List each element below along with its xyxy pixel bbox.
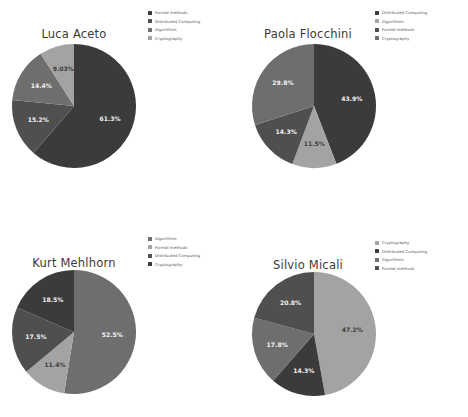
- page-title: Luca Aceto: [0, 27, 148, 41]
- legend-item-label: Formal methods: [155, 245, 187, 250]
- legend-item-label: Algorithms: [382, 19, 404, 24]
- pie-slice-label: 14.3%: [293, 367, 314, 374]
- legend-swatch-icon: [148, 262, 152, 266]
- legend-item[interactable]: Algorithms: [375, 18, 427, 25]
- legend-swatch-icon: [375, 19, 379, 23]
- legend-item-label: Distributed Computing: [382, 10, 427, 15]
- legend-item-label: Algorithms: [382, 257, 404, 262]
- chart-panel-paola-flocchini: Distributed ComputingAlgorithmsFormal me…: [234, 0, 468, 208]
- legend-item[interactable]: Cryptography: [375, 35, 427, 42]
- legend: Formal methodsDistributed ComputingAlgor…: [148, 9, 200, 42]
- page-title: Paola Flocchini: [234, 27, 382, 41]
- legend-swatch-icon: [148, 36, 152, 40]
- legend-item-label: Distributed Computing: [382, 249, 427, 254]
- legend-item[interactable]: Formal methods: [148, 244, 200, 251]
- legend-swatch-icon: [148, 245, 152, 249]
- legend-item[interactable]: Distributed Computing: [375, 248, 427, 255]
- pie-slice-label: 61.3%: [99, 115, 120, 122]
- pie-slice-label: 14.3%: [276, 128, 297, 135]
- legend-item-label: Formal methods: [382, 27, 414, 32]
- legend-swatch-icon: [148, 254, 152, 258]
- legend-item-label: Distributed Computing: [155, 253, 200, 258]
- legend-item-label: Formal methods: [382, 266, 414, 271]
- pie-slice[interactable]: [64, 270, 136, 394]
- page-title: Kurt Mehlhorn: [0, 256, 148, 270]
- legend-item-label: Cryptography: [155, 36, 182, 41]
- pie-slice-label: 29.8%: [272, 79, 293, 86]
- legend-item[interactable]: Formal methods: [375, 265, 427, 272]
- pie-slice-label: 52.5%: [102, 331, 123, 338]
- legend-item-label: Cryptography: [155, 262, 182, 267]
- pie-slice-label: 14.4%: [31, 82, 52, 89]
- pie-chart-grid: Formal methodsDistributed ComputingAlgor…: [0, 0, 468, 417]
- legend-item[interactable]: Algorithms: [375, 256, 427, 263]
- page-title: Silvio Micali: [234, 258, 382, 272]
- pie-slice-label: 11.4%: [44, 361, 65, 368]
- chart-panel-silvio-micali: CryptographyDistributed ComputingAlgorit…: [234, 208, 468, 416]
- legend-item-label: Algorithms: [155, 236, 177, 241]
- legend-item[interactable]: Distributed Computing: [148, 18, 200, 25]
- legend-item[interactable]: Formal methods: [148, 9, 200, 16]
- legend-swatch-icon: [375, 241, 379, 245]
- legend: AlgorithmsFormal methodsDistributed Comp…: [148, 235, 200, 268]
- pie-slice[interactable]: [314, 272, 376, 395]
- pie-chart[interactable]: 61.3%15.2%14.4%9.03%: [12, 44, 136, 168]
- pie-slice-label: 15.2%: [28, 116, 49, 123]
- legend-item[interactable]: Cryptography: [375, 239, 427, 246]
- chart-panel-kurt-mehlhorn: AlgorithmsFormal methodsDistributed Comp…: [0, 208, 234, 416]
- pie-slice-label: 18.5%: [42, 296, 63, 303]
- pie-slice-label: 43.9%: [341, 95, 362, 102]
- legend-swatch-icon: [148, 11, 152, 15]
- chart-panel-luca-aceto: Formal methodsDistributed ComputingAlgor…: [0, 0, 234, 208]
- pie-slice-label: 17.5%: [25, 333, 46, 340]
- legend-item[interactable]: Distributed Computing: [148, 252, 200, 259]
- legend-item-label: Cryptography: [382, 36, 409, 41]
- legend-item[interactable]: Cryptography: [148, 35, 200, 42]
- pie-slice-label: 9.03%: [53, 65, 74, 72]
- legend-item[interactable]: Distributed Computing: [375, 9, 427, 16]
- legend: Distributed ComputingAlgorithmsFormal me…: [375, 9, 427, 42]
- legend-swatch-icon: [375, 11, 379, 15]
- pie-chart[interactable]: 52.5%11.4%17.5%18.5%: [12, 270, 136, 394]
- legend-swatch-icon: [148, 19, 152, 23]
- legend: CryptographyDistributed ComputingAlgorit…: [375, 239, 427, 272]
- legend-item[interactable]: Algorithms: [148, 26, 200, 33]
- legend-swatch-icon: [148, 28, 152, 32]
- legend-item-label: Distributed Computing: [155, 19, 200, 24]
- legend-item-label: Formal methods: [155, 10, 187, 15]
- pie-chart[interactable]: 43.9%11.5%14.3%29.8%: [252, 44, 376, 168]
- pie-slice-label: 11.5%: [304, 140, 325, 147]
- pie-slice-label: 17.8%: [267, 341, 288, 348]
- legend-item[interactable]: Algorithms: [148, 235, 200, 242]
- legend-item[interactable]: Cryptography: [148, 261, 200, 268]
- pie-slice-label: 47.2%: [342, 326, 363, 333]
- legend-item[interactable]: Formal methods: [375, 26, 427, 33]
- pie-chart[interactable]: 47.2%14.3%17.8%20.8%: [252, 272, 376, 396]
- legend-item-label: Cryptography: [382, 240, 409, 245]
- legend-swatch-icon: [375, 249, 379, 253]
- legend-item-label: Algorithms: [155, 27, 177, 32]
- legend-swatch-icon: [148, 237, 152, 241]
- pie-slice-label: 20.8%: [280, 299, 301, 306]
